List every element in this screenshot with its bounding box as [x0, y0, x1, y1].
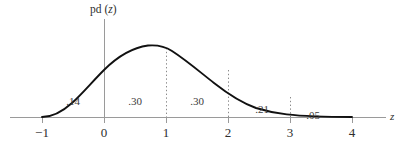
- area-label-3-to-4: .05: [306, 110, 320, 121]
- probability-density-figure: pd (z) z −1 0 1 2 3 4 .14 .30 .30 .21 .0…: [0, 0, 405, 144]
- x-tick-label-0: 0: [101, 126, 108, 139]
- area-label-neg1-to-0: .14: [66, 96, 80, 107]
- x-tick-label-3: 3: [287, 126, 294, 139]
- y-axis-title-suffix: ): [113, 3, 117, 15]
- x-tick-label-2: 2: [225, 126, 232, 139]
- area-label-0-to-1: .30: [128, 96, 142, 107]
- y-axis-title-prefix: pd (: [90, 3, 108, 15]
- x-tick-label-neg1: −1: [35, 126, 49, 139]
- y-axis-title: pd (z): [90, 4, 117, 16]
- x-axis-title: z: [390, 111, 394, 122]
- area-label-1-to-2: .30: [190, 96, 204, 107]
- x-tick-label-4: 4: [349, 126, 356, 139]
- area-label-2-to-3: .21: [255, 104, 269, 115]
- x-tick-label-1: 1: [163, 126, 170, 139]
- segment-dividers: [167, 48, 291, 117]
- plot-canvas: [0, 0, 405, 144]
